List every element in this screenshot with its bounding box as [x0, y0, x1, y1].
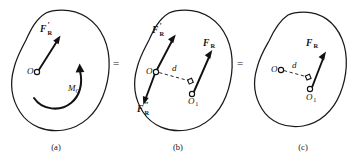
caption-c: (c) — [298, 142, 308, 152]
panel-b: O O 1 F ′ R F ″ R F R d (b) — [135, 10, 232, 152]
svg-text:R: R — [144, 109, 149, 116]
svg-text:R: R — [313, 42, 318, 49]
point-marker-o-a — [34, 69, 39, 74]
point-marker-o-c — [278, 67, 283, 72]
label-point-o-b: O — [146, 66, 153, 76]
label-point-o-c: O — [271, 64, 278, 74]
rigid-body-outline-c — [255, 12, 347, 127]
label-distance-d-c: d — [292, 60, 297, 70]
svg-text:F: F — [305, 38, 313, 48]
point-marker-o1-c — [307, 86, 312, 91]
equals-sign-2: = — [237, 57, 243, 69]
svg-text:F: F — [39, 24, 47, 34]
svg-text:1: 1 — [195, 100, 198, 107]
svg-text:O: O — [306, 92, 313, 102]
svg-text:O: O — [76, 87, 81, 94]
svg-text:1: 1 — [313, 96, 316, 103]
equals-sign-1: = — [113, 57, 119, 69]
label-distance-d-b: d — [172, 63, 177, 73]
panel-a: O F ′ R M O (a) — [12, 10, 109, 152]
svg-text:F: F — [202, 38, 210, 48]
mechanics-figure: O F ′ R M O (a) = O — [0, 0, 354, 162]
svg-text:R: R — [210, 42, 215, 49]
label-point-o-a: O — [27, 66, 34, 76]
point-marker-o-b — [153, 69, 158, 74]
perp-foot-marker-b — [187, 78, 193, 84]
caption-a: (a) — [51, 142, 61, 152]
svg-text:F: F — [136, 104, 144, 114]
caption-b: (b) — [173, 142, 183, 152]
svg-text:O: O — [188, 96, 195, 106]
panel-c: O O 1 F R d (c) — [255, 12, 347, 152]
svg-text:R: R — [47, 29, 52, 36]
svg-text:R: R — [159, 30, 164, 37]
perp-foot-marker-c — [305, 74, 311, 80]
svg-text:F: F — [151, 25, 159, 35]
